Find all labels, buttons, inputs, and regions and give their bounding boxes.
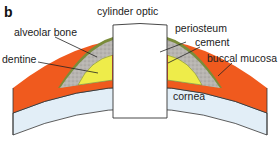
label-buccal-mucosa: buccal mucosa [207,52,277,64]
panel-label: b [4,4,13,20]
label-periosteum: periosteum [175,22,227,34]
cylinder-optic [113,24,167,119]
label-cornea: cornea [173,90,205,102]
label-cement: cement [195,36,230,48]
label-cylinder-optic: cylinder optic [97,5,158,17]
label-dentine: dentine [2,53,37,65]
label-alveolar-bone: alveolar bone [14,26,77,38]
oocp-diagram: b cylinder optic alveolar bone dentine p… [0,0,280,145]
